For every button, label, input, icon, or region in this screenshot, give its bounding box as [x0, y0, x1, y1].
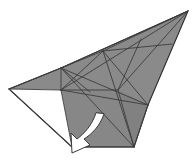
origami-figure-svg [0, 0, 195, 162]
origami-diagram-root [0, 0, 195, 162]
